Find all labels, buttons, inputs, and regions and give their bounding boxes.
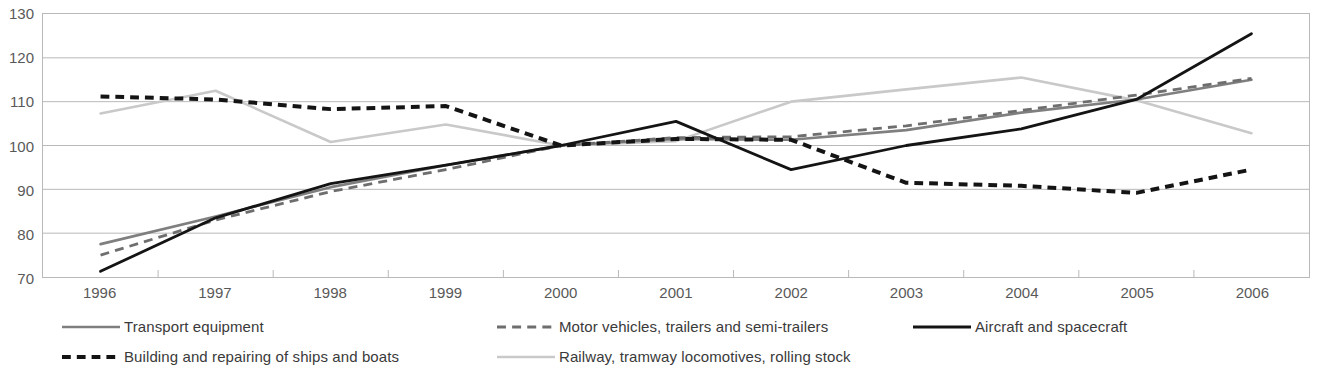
- y-tick-label: 90: [17, 182, 34, 197]
- legend-item[interactable]: Motor vehicles, trailers and semi-traile…: [497, 318, 828, 335]
- x-tick-label: 1996: [83, 285, 116, 301]
- gridlines: [43, 58, 1309, 233]
- y-tick-label: 100: [9, 138, 34, 153]
- legend-item[interactable]: Transport equipment: [62, 318, 264, 335]
- legend-label: Motor vehicles, trailers and semi-traile…: [559, 318, 828, 335]
- y-tick-label: 80: [17, 226, 34, 241]
- legend-line-swatch-icon: [497, 350, 555, 364]
- x-axis: 1996199719981999200020012002200320042005…: [42, 279, 1310, 307]
- x-tick-label: 2003: [890, 285, 923, 301]
- y-tick-label: 70: [17, 271, 34, 286]
- series-line: [101, 34, 1252, 272]
- y-tick-label: 130: [9, 6, 34, 21]
- chart-legend: Transport equipmentMotor vehicles, trail…: [0, 310, 1327, 386]
- y-tick-label: 120: [9, 50, 34, 65]
- series-line: [101, 96, 1252, 192]
- x-tick-label: 1997: [198, 285, 231, 301]
- legend-line-swatch-icon: [62, 350, 120, 364]
- legend-line-swatch-icon: [913, 320, 971, 334]
- plot-svg: [43, 14, 1309, 277]
- x-tick-label: 2004: [1005, 285, 1038, 301]
- legend-item[interactable]: Railway, tramway locomotives, rolling st…: [497, 348, 851, 365]
- x-tick-label: 2002: [775, 285, 808, 301]
- x-tick-label: 2005: [1120, 285, 1153, 301]
- y-tick-label: 110: [10, 94, 34, 109]
- legend-line-swatch-icon: [62, 320, 120, 334]
- series-line: [101, 80, 1252, 244]
- x-tick-label: 1999: [429, 285, 462, 301]
- legend-item[interactable]: Aircraft and spacecraft: [913, 318, 1127, 335]
- y-axis: 130120110100908070: [0, 0, 42, 292]
- legend-label: Building and repairing of ships and boat…: [124, 348, 399, 365]
- x-tick-label: 2000: [544, 285, 577, 301]
- x-tick-label: 1998: [313, 285, 346, 301]
- legend-label: Railway, tramway locomotives, rolling st…: [559, 348, 851, 365]
- x-tick-marks: [158, 270, 1194, 277]
- x-tick-label: 2001: [659, 285, 692, 301]
- legend-label: Aircraft and spacecraft: [975, 318, 1127, 335]
- legend-line-swatch-icon: [497, 320, 555, 334]
- legend-label: Transport equipment: [124, 318, 264, 335]
- line-chart: 130120110100908070 199619971998199920002…: [0, 0, 1327, 386]
- x-tick-label: 2006: [1236, 285, 1269, 301]
- series-line: [101, 78, 1252, 146]
- legend-item[interactable]: Building and repairing of ships and boat…: [62, 348, 399, 365]
- plot-area: [42, 13, 1310, 278]
